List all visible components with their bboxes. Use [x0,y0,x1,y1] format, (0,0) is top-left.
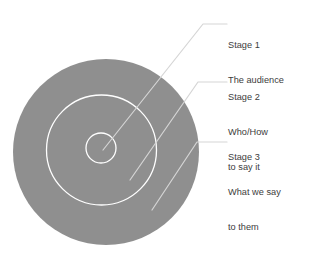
label-stage-3: Stage 3 What we say to them [228,129,281,257]
label-stage-2-title: Stage 2 [228,92,268,104]
label-stage-3-line-1: What we say [228,187,281,199]
target-diagram: Stage 1 The audience Stage 2 Who/How to … [0,0,316,260]
label-stage-3-line-2: to them [228,222,281,234]
label-stage-1-title: Stage 1 [228,40,284,52]
label-stage-3-title: Stage 3 [228,152,281,164]
outer-circle [13,59,199,245]
